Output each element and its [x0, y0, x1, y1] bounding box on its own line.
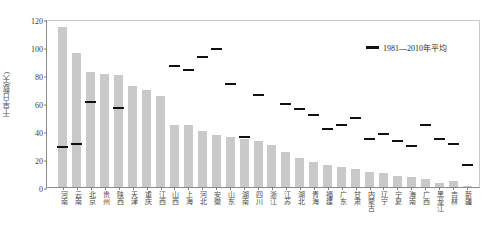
bar — [421, 179, 430, 187]
x-axis-tick-label: 陕西 — [113, 191, 124, 205]
x-axis-tick-label: 福建 — [322, 191, 333, 205]
average-marker — [57, 146, 68, 148]
average-marker — [364, 138, 375, 140]
bar — [240, 139, 249, 187]
y-axis-tick-mark — [44, 77, 47, 78]
x-axis-tick-label: 江苏 — [280, 191, 291, 205]
x-axis-tick-label: 甘肃 — [350, 191, 361, 205]
x-axis-tick-label: 上海 — [182, 191, 193, 205]
bar — [407, 177, 416, 187]
y-axis-tick-mark — [44, 49, 47, 50]
bar — [142, 90, 151, 187]
average-marker — [420, 124, 431, 126]
bar — [156, 96, 165, 187]
bar — [128, 86, 137, 187]
bar — [212, 135, 221, 187]
bar — [58, 27, 67, 187]
x-axis-tick-label: 天津 — [127, 191, 138, 205]
average-marker — [169, 65, 180, 67]
x-axis-tick-mark — [453, 187, 454, 190]
average-marker — [308, 114, 319, 116]
x-axis-tick-label: 湖南 — [238, 191, 249, 205]
x-axis-tick-mark — [356, 187, 357, 190]
chart-legend: 1981—2010年平均 — [366, 42, 447, 53]
x-axis-tick-label: 安徽 — [210, 191, 221, 205]
x-axis-tick-mark — [230, 187, 231, 190]
x-axis-tick-label: 广西 — [419, 191, 430, 205]
x-axis-tick-label: 云南 — [71, 191, 82, 205]
x-axis-tick-mark — [91, 187, 92, 190]
x-axis-tick-label: 山东 — [224, 191, 235, 205]
bar — [184, 125, 193, 187]
bar — [323, 165, 332, 187]
x-axis-tick-label: 河南 — [57, 191, 68, 205]
average-marker — [462, 164, 473, 166]
x-axis-tick-label: 青海 — [308, 191, 319, 205]
x-axis-tick-mark — [286, 187, 287, 190]
bar — [267, 145, 276, 187]
y-axis-tick-mark — [44, 105, 47, 106]
bar — [226, 137, 235, 187]
average-marker — [322, 128, 333, 130]
average-marker — [85, 101, 96, 103]
x-axis-tick-mark — [258, 187, 259, 190]
bar — [393, 176, 402, 187]
x-axis-tick-mark — [105, 187, 106, 190]
average-marker — [71, 143, 82, 145]
bar — [86, 72, 95, 187]
y-axis-title: 干旱日数(天) — [2, 72, 18, 117]
x-axis-tick-label: 海南 — [405, 191, 416, 205]
x-axis-tick-label: 广东 — [336, 191, 347, 205]
x-axis-tick-mark — [342, 187, 343, 190]
bar — [365, 172, 374, 187]
average-marker — [113, 107, 124, 109]
average-marker — [211, 48, 222, 50]
x-axis-tick-label: 北京 — [85, 191, 96, 205]
y-axis-tick-mark — [44, 161, 47, 162]
legend-swatch-average-icon — [366, 46, 379, 49]
x-axis-tick-label: 浙江 — [266, 191, 277, 205]
x-axis-tick-label: 辽宁 — [377, 191, 388, 205]
x-axis-tick-mark — [383, 187, 384, 190]
legend-label-average: 1981—2010年平均 — [383, 42, 447, 53]
bar — [100, 74, 109, 187]
x-axis-tick-mark — [397, 187, 398, 190]
average-marker — [253, 94, 264, 96]
bar — [114, 75, 123, 187]
average-marker — [378, 133, 389, 135]
bar — [295, 158, 304, 187]
x-axis-tick-mark — [63, 187, 64, 190]
average-marker — [294, 108, 305, 110]
x-axis-tick-label: 江西 — [155, 191, 166, 205]
bar — [351, 169, 360, 187]
x-axis-tick-mark — [147, 187, 148, 190]
y-axis-tick-mark — [44, 189, 47, 190]
x-axis-tick-mark — [314, 187, 315, 190]
average-marker — [350, 117, 361, 119]
x-axis-tick-mark — [370, 187, 371, 190]
y-axis-tick-mark — [44, 133, 47, 134]
x-axis-tick-label: 内蒙古 — [364, 191, 375, 212]
y-axis-tick-mark — [44, 21, 47, 22]
x-axis-tick-label: 宁夏 — [391, 191, 402, 205]
x-axis-tick-mark — [202, 187, 203, 190]
average-marker — [336, 124, 347, 126]
x-axis-tick-label: 湖北 — [294, 191, 305, 205]
bar — [170, 125, 179, 187]
average-marker — [197, 56, 208, 58]
bar — [281, 152, 290, 187]
x-axis-tick-mark — [425, 187, 426, 190]
x-axis-tick-mark — [174, 187, 175, 190]
average-marker — [434, 138, 445, 140]
x-axis-tick-label: 山西 — [168, 191, 179, 205]
x-axis-tick-mark — [467, 187, 468, 190]
bar — [72, 53, 81, 187]
bar — [198, 131, 207, 187]
x-axis-tick-label: 吉林 — [447, 191, 458, 205]
x-axis-tick-mark — [133, 187, 134, 190]
drought-days-bar-chart: 干旱日数(天) 020406080100120 1981—2010年平均 河南云… — [0, 0, 494, 240]
x-axis-tick-label: 重庆 — [141, 191, 152, 205]
average-marker — [280, 103, 291, 105]
x-axis-tick-mark — [411, 187, 412, 190]
x-axis-tick-mark — [216, 187, 217, 190]
